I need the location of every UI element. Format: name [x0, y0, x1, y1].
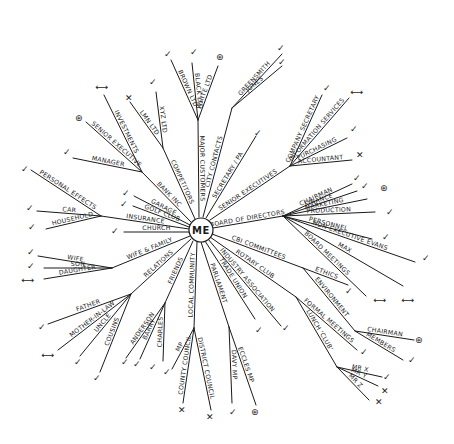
tick-icon: ✓ [26, 203, 34, 213]
tick-icon: ✓ [382, 232, 390, 242]
cross-icon: ✕ [381, 386, 389, 396]
tick-icon: ✓ [38, 322, 46, 332]
cross-icon: ✕ [206, 412, 214, 422]
tick-icon: ✓ [383, 372, 391, 382]
tick-icon: ✓ [122, 188, 130, 198]
double-arrow-icon: ⟷ [21, 275, 34, 285]
branch-line [198, 120, 199, 217]
tick-icon: ✓ [386, 207, 394, 217]
tick-icon: ✓ [111, 226, 119, 236]
tick-icon: ✓ [93, 373, 101, 383]
branch-label[interactable]: INFORMATION SERVICES [287, 96, 346, 162]
tick-icon: ✓ [360, 347, 368, 357]
mind-map: BOARD OF DIRECTORSCHAIRMANFINANCEMARKETI… [0, 0, 454, 444]
branch-label[interactable]: LMN LTD [139, 109, 161, 136]
branch-label[interactable]: GREENSMITH [236, 60, 271, 97]
tick-icon: ✓ [190, 47, 198, 57]
double-arrow-icon: ⟷ [41, 350, 54, 360]
branch-labels: BOARD OF DIRECTORSCHAIRMANFINANCEMARKETI… [39, 60, 404, 401]
branch-label[interactable]: MAJOR CUSTOMERS [198, 135, 207, 201]
tick-icon: ✓ [133, 359, 141, 369]
center-node[interactable]: ME [189, 218, 213, 242]
tick-icon: ✓ [163, 367, 171, 377]
tick-icon: ✓ [278, 57, 286, 67]
tick-icon: ✓ [422, 253, 430, 263]
tick-icon: ✓ [149, 362, 157, 372]
branch-label[interactable]: CAR [62, 205, 77, 213]
tick-icon: ✓ [27, 261, 35, 271]
tick-icon: ✓ [353, 173, 361, 183]
cross-icon: ✕ [375, 397, 383, 407]
branch-label[interactable]: CHURCH [142, 224, 170, 231]
double-arrow-icon: ⟷ [401, 295, 414, 305]
double-arrow-icon: ⟷ [350, 87, 363, 97]
tick-icon: ✓ [28, 222, 36, 232]
tick-icon: ✓ [63, 147, 71, 157]
branch-label[interactable]: DAVY MP [231, 350, 239, 380]
double-arrow-icon: ⟷ [373, 295, 386, 305]
double-arrow-icon: ⟷ [95, 82, 108, 92]
tick-icon: ✓ [345, 286, 353, 296]
tick-icon: ✓ [21, 164, 29, 174]
tick-icon: ✓ [27, 247, 35, 257]
branch-label[interactable]: CHARLES [156, 316, 164, 347]
tick-icon: ✓ [254, 128, 262, 138]
star-circle-icon: ⊛ [216, 52, 224, 62]
cross-icon: ✕ [178, 405, 186, 415]
tick-icon: ✓ [229, 407, 237, 417]
center-label: ME [192, 225, 210, 236]
star-circle-icon: ⊛ [75, 113, 83, 123]
star-circle-icon: ⊛ [380, 183, 388, 193]
tick-icon: ✓ [255, 325, 263, 335]
cross-icon: ✕ [356, 150, 364, 160]
branch-lines [31, 54, 415, 410]
tick-icon: ✓ [350, 124, 358, 134]
tick-icon: ✓ [164, 49, 172, 59]
cross-icon: ✕ [125, 93, 133, 103]
tick-icon: ✓ [323, 83, 331, 93]
tick-icon: ✓ [408, 355, 416, 365]
tick-icon: ✓ [121, 357, 129, 367]
tick-icon: ✓ [120, 199, 128, 209]
branch-line [283, 216, 415, 262]
tick-icon: ✓ [149, 77, 157, 87]
tick-icon: ✓ [361, 181, 369, 191]
branch-label[interactable]: PERSONAL EFFECTS [39, 168, 99, 211]
tick-icon: ✓ [74, 357, 82, 367]
tick-icon: ✓ [277, 43, 285, 53]
tick-icon: ✓ [282, 323, 290, 333]
star-circle-icon: ⊛ [415, 335, 423, 345]
branch-line [163, 303, 165, 361]
star-circle-icon: ⊛ [251, 407, 259, 417]
